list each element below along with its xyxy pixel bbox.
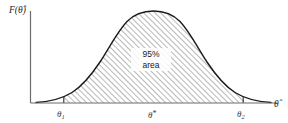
x-tick-label-theta2: θ2: [237, 110, 245, 120]
tick-thetastar-superscript: *: [152, 109, 156, 118]
area-annotation: 95% area: [131, 48, 171, 71]
y-axis-label: F(θ̂): [9, 6, 26, 16]
x-axis-label: θ̂: [274, 100, 279, 110]
area-annotation-word: area: [132, 60, 170, 71]
x-tick-label-theta1: θ1: [57, 110, 65, 120]
tick-theta2-subscript: 2: [241, 113, 244, 120]
tick-theta1-subscript: 1: [61, 113, 64, 120]
area-annotation-percent: 95%: [132, 49, 170, 60]
figure-container: F(θ̂) θ̂ θ1 θ* θ2 95% area: [0, 0, 288, 123]
x-tick-label-theta-star: θ*: [148, 110, 156, 120]
